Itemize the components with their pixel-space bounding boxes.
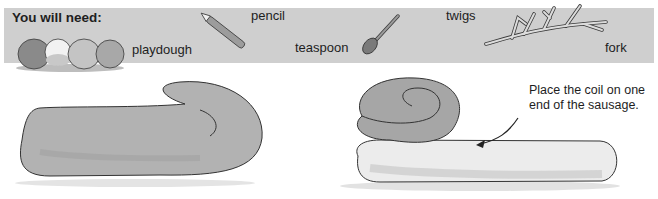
twigs-icon <box>484 4 614 50</box>
teaspoon-icon <box>360 14 405 54</box>
you-will-need-title: You will need: <box>12 11 102 25</box>
item-label-pencil: pencil <box>251 9 285 23</box>
item-label-twigs: twigs <box>446 9 476 23</box>
pencil-icon <box>200 12 250 46</box>
step-2-caption: Place the coil on one end of the sausage… <box>529 83 658 113</box>
step-1-sausage-illustration <box>0 80 280 190</box>
item-label-playdough: playdough <box>132 43 192 57</box>
item-label-teaspoon: teaspoon <box>295 41 349 55</box>
playdough-balls-icon <box>14 38 126 72</box>
item-label-fork: fork <box>605 41 627 55</box>
